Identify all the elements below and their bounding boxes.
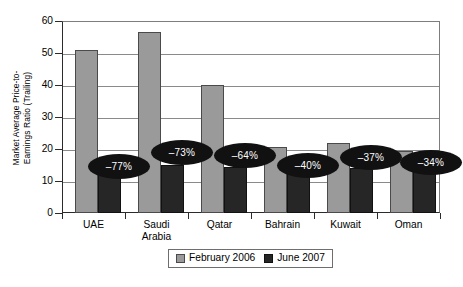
x-axis-labels: UAE Saudi Arabia Qatar Bahrain Kuwait Om… <box>62 219 440 242</box>
x-axis-label-uae-line-1: UAE <box>62 219 125 231</box>
y-tick-30 <box>55 117 62 118</box>
bar-group-uae <box>62 21 125 213</box>
callout-oman: –34% <box>400 150 462 175</box>
callout-uae: –77% <box>88 154 150 179</box>
legend-label-june-2007: June 2007 <box>277 253 325 263</box>
x-axis-label-kuwait: Kuwait <box>314 219 377 242</box>
x-axis-label-saudi-arabia-line-1: Saudi <box>125 219 188 231</box>
x-axis-label-kuwait-line-1: Kuwait <box>314 219 377 231</box>
y-axis-label-50: 50 <box>7 48 53 58</box>
x-axis-label-bahrain: Bahrain <box>251 219 314 242</box>
x-axis-label-uae: UAE <box>62 219 125 242</box>
legend: February 2006 June 2007 <box>168 249 333 268</box>
y-tick-50 <box>55 53 62 54</box>
y-tick-40 <box>55 85 62 86</box>
y-tick-60 <box>55 21 62 22</box>
x-axis-label-saudi-arabia-line-2: Arabia <box>125 231 188 243</box>
y-axis-label-60: 60 <box>7 16 53 26</box>
x-axis-label-saudi-arabia: Saudi Arabia <box>125 219 188 242</box>
bar-uae-june-2007 <box>98 175 121 213</box>
y-tick-0 <box>55 213 62 214</box>
bar-saudi-arabia-february-2006 <box>138 32 161 213</box>
x-tick-6 <box>440 213 441 219</box>
y-axis-label-10: 10 <box>7 176 53 186</box>
x-axis-label-qatar: Qatar <box>188 219 251 242</box>
callout-qatar: –64% <box>214 143 276 168</box>
legend-label-february-2006: February 2006 <box>189 253 255 263</box>
bar-bahrain-june-2007 <box>287 173 310 213</box>
bar-chart: Market Average Price-to- Earnings Ratio … <box>0 0 463 287</box>
legend-item-june-2007[interactable]: June 2007 <box>264 253 325 263</box>
bar-group-bahrain <box>251 21 314 213</box>
bar-groups <box>62 21 440 213</box>
bar-group-kuwait <box>314 21 377 213</box>
legend-swatch-june-2007 <box>264 254 273 263</box>
bar-group-qatar <box>188 21 251 213</box>
x-axis-label-oman: Oman <box>377 219 440 242</box>
callout-kuwait: –37% <box>340 145 402 170</box>
y-tick-10 <box>55 181 62 182</box>
x-axis-label-bahrain-line-1: Bahrain <box>251 219 314 231</box>
callout-bahrain: –40% <box>277 153 339 178</box>
callout-saudi-arabia: –73% <box>151 140 213 165</box>
y-axis-label-30: 30 <box>7 112 53 122</box>
y-axis-label-20: 20 <box>7 144 53 154</box>
y-axis-label-40: 40 <box>7 80 53 90</box>
bar-qatar-june-2007 <box>224 167 247 213</box>
bar-saudi-arabia-june-2007 <box>161 165 184 213</box>
bar-oman-june-2007 <box>413 171 436 213</box>
x-axis-label-oman-line-1: Oman <box>377 219 440 231</box>
bar-group-saudi-arabia <box>125 21 188 213</box>
x-axis-label-qatar-line-1: Qatar <box>188 219 251 231</box>
bar-group-oman <box>377 21 440 213</box>
legend-item-february-2006[interactable]: February 2006 <box>176 253 255 263</box>
bar-kuwait-june-2007 <box>350 168 373 213</box>
legend-swatch-february-2006 <box>176 254 185 263</box>
y-tick-20 <box>55 149 62 150</box>
y-axis-label-0: 0 <box>7 208 53 218</box>
bar-uae-february-2006 <box>75 50 98 213</box>
